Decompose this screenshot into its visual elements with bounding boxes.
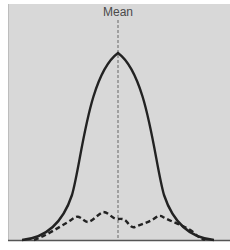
dashed-irregular-curve: [34, 212, 205, 240]
mean-label: Mean: [98, 5, 138, 19]
distribution-plot: [0, 0, 230, 250]
